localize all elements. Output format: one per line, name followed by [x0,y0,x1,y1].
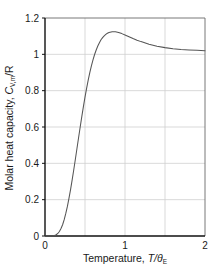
chart-background [0,0,213,274]
x-tick-label-2: 2 [202,240,208,251]
y-tick-label-3: 0.6 [25,122,39,133]
y-tick-label-2: 0.4 [25,158,39,169]
x-axis-title: Temperature, T/θE [83,252,168,265]
y-tick-label-5: 1 [33,49,39,60]
y-tick-label-6: 1.2 [25,13,39,24]
y-tick-label-0: 0 [33,231,39,242]
y-tick-label-4: 0.8 [25,85,39,96]
chart-figure: 00.20.40.60.811.2 012 Temperature, T/θE … [0,0,213,274]
x-tick-label-0: 0 [42,240,48,251]
y-tick-label-1: 0.2 [25,194,39,205]
x-tick-label-1: 1 [122,240,128,251]
heat-capacity-line-chart: 00.20.40.60.811.2 012 Temperature, T/θE … [0,0,213,274]
